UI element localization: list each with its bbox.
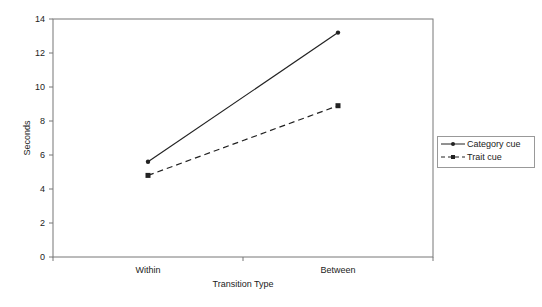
- data-point: [146, 173, 151, 178]
- data-point: [336, 30, 340, 34]
- data-point: [146, 160, 150, 164]
- plot-area: [53, 19, 433, 257]
- y-tick-label: 8: [40, 116, 45, 126]
- y-tick-label: 14: [35, 14, 45, 24]
- data-point: [336, 103, 341, 108]
- y-tick-label: 0: [40, 252, 45, 262]
- y-axis: 02468101214: [35, 14, 53, 262]
- y-tick-label: 10: [35, 82, 45, 92]
- solid-line-circle-marker-icon: [441, 140, 465, 148]
- dashed-line-square-marker-icon: [441, 153, 465, 161]
- x-axis-title: Transition Type: [212, 279, 273, 289]
- legend-item-trait-cue: Trait cue: [438, 150, 534, 163]
- y-tick-label: 12: [35, 48, 45, 58]
- legend: Category cue Trait cue: [437, 136, 535, 168]
- x-axis: WithinBetween: [53, 257, 433, 275]
- x-tick-label: Between: [320, 265, 355, 275]
- y-tick-label: 4: [40, 184, 45, 194]
- y-tick-label: 6: [40, 150, 45, 160]
- y-axis-title: Seconds: [22, 120, 32, 156]
- x-tick-label: Within: [135, 265, 160, 275]
- legend-item-category-cue: Category cue: [438, 137, 534, 150]
- legend-label: Trait cue: [467, 152, 502, 162]
- legend-label: Category cue: [467, 139, 521, 149]
- y-tick-label: 2: [40, 218, 45, 228]
